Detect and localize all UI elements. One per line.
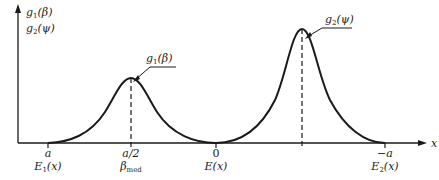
x-axis-arrow-icon <box>418 140 427 146</box>
x-axis-label: x <box>431 137 438 150</box>
tick-value-a-half: a/2 <box>122 147 139 160</box>
tick-value-zero: 0 <box>213 147 220 160</box>
curve2-label: g2(ψ) <box>325 13 354 27</box>
y-axis-label-g1: g1(β) <box>26 6 52 20</box>
curve-g1-beta <box>48 78 216 143</box>
y-axis-label-g2: g2(ψ) <box>26 22 55 36</box>
tick-desc-beta-med: βmed <box>119 160 142 174</box>
curve-g2-psi <box>216 29 385 143</box>
curve1-label: g1(β) <box>146 52 172 66</box>
tick-value-a: a <box>45 147 52 160</box>
tick-desc-E: E(x) <box>204 160 228 173</box>
curve1-leader <box>133 67 176 82</box>
tick-desc-E1: E1(x) <box>33 160 61 174</box>
y-axis-arrow-icon <box>15 4 21 13</box>
y-axis <box>15 4 21 143</box>
tick-desc-E2: E2(x) <box>370 160 398 174</box>
tick-value-neg-a: −a <box>377 147 393 160</box>
curve2-leader <box>305 28 352 39</box>
distribution-diagram: g1(β) g2(ψ) x g1(β) <box>0 0 439 180</box>
